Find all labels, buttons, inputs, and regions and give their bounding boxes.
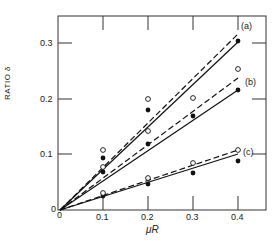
y-tick-label-0.3: 0.3 <box>40 38 53 48</box>
x-ticks <box>103 16 238 210</box>
x-tick-label-0.3: 0.3 <box>186 212 199 222</box>
curve-label-c: (c) <box>243 147 254 157</box>
x-tick-label-0.1: 0.1 <box>96 212 109 222</box>
curve-label-a: (a) <box>241 21 252 31</box>
y-tick-label-0.1: 0.1 <box>40 149 53 159</box>
y-tick-label-0: 0 <box>51 204 56 214</box>
x-tick-label-0.2: 0.2 <box>141 212 154 222</box>
x-tick-label-0.4: 0.4 <box>231 212 244 222</box>
x-tick-label-0: 0 <box>57 210 62 220</box>
points-a <box>101 39 241 161</box>
curve-label-b: (b) <box>245 77 256 87</box>
y-ticks <box>58 43 266 154</box>
y-axis-label: RATIO δ <box>3 66 12 100</box>
y-tick-label-0.2: 0.2 <box>40 94 53 104</box>
x-axis-label: μR <box>146 224 159 235</box>
chart-plot <box>0 0 279 245</box>
points-b <box>101 67 241 175</box>
